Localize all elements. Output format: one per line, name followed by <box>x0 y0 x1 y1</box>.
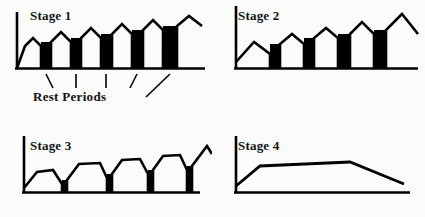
stage-4-label: Stage 4 <box>238 139 279 152</box>
rest-block-4 <box>374 30 386 68</box>
rest-periods-label: Rest Periods <box>33 90 106 103</box>
stage-3-rest-blocks <box>62 166 192 192</box>
figure-root: Stage 1 Rest Periods Stage 2 <box>0 0 425 217</box>
leader-line-4 <box>130 74 137 88</box>
rest-block-3 <box>101 34 112 68</box>
stage-3-label: Stage 3 <box>30 139 71 152</box>
rest-block-1 <box>270 44 280 68</box>
rest-block-2 <box>71 38 81 68</box>
leader-line-5 <box>146 74 170 97</box>
stage-4-load-curve <box>236 162 404 186</box>
leader-line-1 <box>46 74 53 88</box>
stage-2-rest-blocks <box>270 30 386 68</box>
rest-block-1 <box>41 42 51 68</box>
rest-block-3 <box>338 34 350 68</box>
stage-1-label: Stage 1 <box>30 9 71 22</box>
rest-block-2 <box>304 38 314 68</box>
stage-2-label: Stage 2 <box>238 9 279 22</box>
rest-block-4 <box>132 30 143 68</box>
rest-block-5 <box>163 26 177 68</box>
